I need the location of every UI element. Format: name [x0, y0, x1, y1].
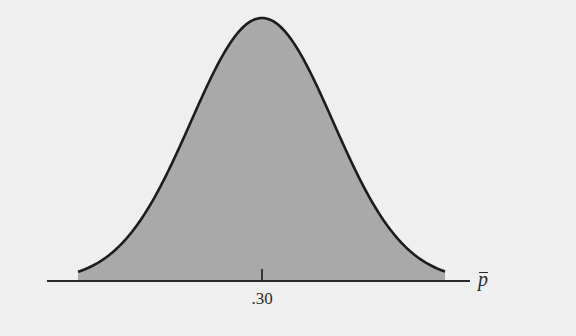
overbar: [479, 272, 488, 273]
shaded-area: [78, 18, 445, 281]
normal-curve-plot: [0, 0, 576, 336]
chart-canvas: .30 p: [0, 0, 576, 336]
x-axis-label-p-bar: p: [478, 268, 488, 291]
tick-label-mean: .30: [251, 289, 272, 309]
